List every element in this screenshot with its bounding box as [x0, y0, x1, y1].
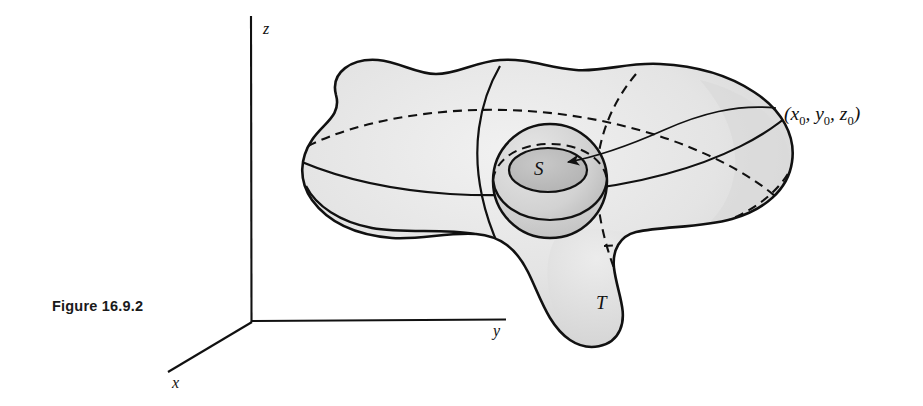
- y-axis-label: y: [493, 322, 500, 340]
- figure-caption: Figure 16.9.2: [52, 298, 143, 314]
- figure-canvas: Figure 16.9.2 z y x S T (x0, y0, z0): [0, 0, 923, 406]
- coord-y: y: [815, 103, 824, 124]
- paren-close: ): [854, 103, 861, 124]
- inner-surface-label: S: [534, 158, 544, 180]
- surface-integral-diagram: [0, 0, 923, 406]
- x-axis-label: x: [172, 374, 179, 392]
- outer-surface-lobe-shade: [547, 229, 671, 347]
- coord-sep-2: ,: [830, 103, 840, 124]
- z-axis: [251, 16, 252, 322]
- inner-surface-S: [493, 124, 607, 240]
- coord-x: x: [791, 103, 800, 124]
- inner-sphere-cap-fill: [509, 148, 587, 192]
- z-axis-label: z: [263, 20, 269, 38]
- coord-sep-1: ,: [805, 103, 815, 124]
- y-axis: [252, 320, 506, 322]
- x-axis: [168, 322, 252, 372]
- point-coordinate-label: (x0, y0, z0): [784, 103, 860, 129]
- outer-surface-label: T: [596, 292, 607, 314]
